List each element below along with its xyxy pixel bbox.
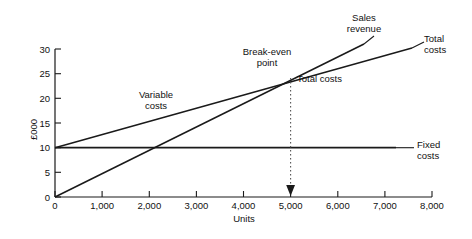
x-tick-label: 2,000 bbox=[137, 200, 161, 211]
break-even-label-line2: point bbox=[257, 57, 278, 68]
x-axis-title: Units bbox=[223, 213, 265, 224]
x-tick-label: 8,000 bbox=[420, 200, 444, 211]
y-tick-label: 5 bbox=[45, 167, 50, 178]
break-even-chart: 0 5 10 15 20 25 30 0 1,000 2,000 3,000 4… bbox=[0, 0, 472, 239]
y-tick-labels: 0 5 10 15 20 25 30 bbox=[39, 44, 50, 203]
x-axis-ticks bbox=[55, 191, 432, 197]
variable-costs-label: Variable costs bbox=[120, 89, 192, 111]
break-even-point-label: Break-even point bbox=[228, 46, 306, 68]
sales-revenue-label: Sales revenue bbox=[336, 12, 392, 34]
leader-line-total-costs bbox=[412, 42, 424, 48]
axes bbox=[55, 49, 432, 197]
y-axis-ticks bbox=[55, 49, 61, 197]
break-even-label-line1: Break-even bbox=[243, 46, 292, 57]
x-tick-label: 5,000 bbox=[279, 200, 303, 211]
fixed-costs-label: Fixed costs bbox=[417, 139, 440, 161]
total-costs-inline-label: Total costs bbox=[297, 73, 342, 84]
fixed-costs-label-line1: Fixed bbox=[417, 139, 440, 150]
total-costs-right-line2: costs bbox=[424, 44, 446, 55]
leader-line-sales-revenue bbox=[364, 36, 374, 44]
sales-revenue-label-line1: Sales bbox=[352, 12, 376, 23]
fixed-costs-label-line2: costs bbox=[417, 150, 439, 161]
variable-costs-label-line1: Variable bbox=[139, 89, 173, 100]
break-even-arrowhead bbox=[286, 185, 295, 196]
x-tick-label: 1,000 bbox=[90, 200, 114, 211]
x-tick-label: 3,000 bbox=[185, 200, 209, 211]
x-tick-label: 6,000 bbox=[326, 200, 350, 211]
x-tick-label: 0 bbox=[52, 200, 57, 211]
y-tick-label: 0 bbox=[45, 192, 50, 203]
y-tick-label: 20 bbox=[39, 93, 50, 104]
x-tick-labels: 0 1,000 2,000 3,000 4,000 5,000 6,000 7,… bbox=[52, 200, 444, 211]
x-tick-label: 4,000 bbox=[232, 200, 256, 211]
total-costs-right-label: Total costs bbox=[424, 33, 446, 55]
sales-revenue-label-line2: revenue bbox=[347, 23, 381, 34]
chart-canvas: 0 5 10 15 20 25 30 0 1,000 2,000 3,000 4… bbox=[0, 0, 472, 239]
variable-costs-label-line2: costs bbox=[145, 100, 167, 111]
y-tick-label: 30 bbox=[39, 44, 50, 55]
y-axis-title: £000 bbox=[28, 119, 39, 140]
series-line-sales-revenue bbox=[55, 44, 364, 197]
y-tick-label: 15 bbox=[39, 118, 50, 129]
y-tick-label: 25 bbox=[39, 68, 50, 79]
total-costs-right-line1: Total bbox=[424, 33, 444, 44]
y-tick-label: 10 bbox=[39, 142, 50, 153]
x-tick-label: 7,000 bbox=[373, 200, 397, 211]
